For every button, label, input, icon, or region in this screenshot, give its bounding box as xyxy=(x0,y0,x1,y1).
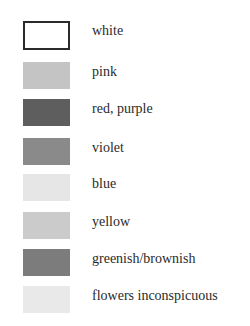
legend-item-white: white xyxy=(0,21,250,49)
flowers-inconspicuous-swatch xyxy=(23,286,70,313)
yellow-swatch xyxy=(23,212,70,239)
pink-swatch xyxy=(23,62,70,89)
legend-item-yellow: yellow xyxy=(0,212,250,240)
legend-label: red, purple xyxy=(92,100,153,118)
legend-label: pink xyxy=(92,63,117,81)
legend-label: greenish/brownish xyxy=(92,250,195,268)
flower-color-legend: white pink red, purple violet blue yello… xyxy=(0,0,250,326)
legend-item-pink: pink xyxy=(0,62,250,90)
blue-swatch xyxy=(23,174,70,201)
legend-label: white xyxy=(92,22,123,40)
violet-swatch xyxy=(23,138,70,165)
white-swatch xyxy=(23,21,70,50)
legend-label: blue xyxy=(92,175,116,193)
legend-item-red-purple: red, purple xyxy=(0,99,250,127)
legend-item-greenish-brownish: greenish/brownish xyxy=(0,249,250,277)
legend-label: flowers inconspicuous xyxy=(92,287,218,305)
greenish-brownish-swatch xyxy=(23,249,70,276)
red-purple-swatch xyxy=(23,99,70,126)
legend-item-violet: violet xyxy=(0,138,250,166)
legend-label: violet xyxy=(92,139,124,157)
legend-item-blue: blue xyxy=(0,174,250,202)
legend-item-flowers-inconspicuous: flowers inconspicuous xyxy=(0,286,250,314)
legend-label: yellow xyxy=(92,213,130,231)
